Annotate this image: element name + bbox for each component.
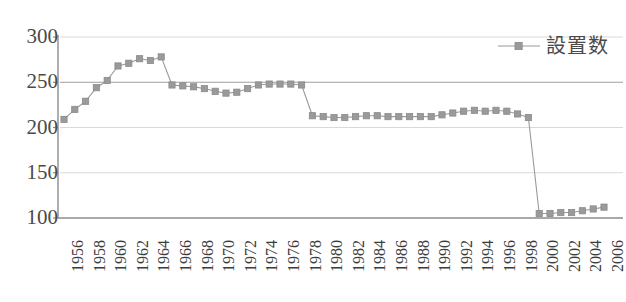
x-axis-tick-label: 1960 [113, 240, 129, 272]
x-axis-tick-label: 1986 [394, 240, 410, 272]
x-axis-tick-label: 1980 [329, 240, 345, 272]
x-axis-tick-label: 1996 [502, 240, 518, 272]
x-axis-tick-label: 1990 [437, 240, 453, 272]
x-axis-tick-label: 1968 [200, 240, 216, 272]
x-axis-tick-label: 1976 [286, 240, 302, 272]
x-axis-tick-label: 2006 [610, 240, 626, 272]
x-axis-tick-label: 1984 [372, 240, 388, 272]
x-axis-tick-label: 1962 [135, 240, 151, 272]
x-axis-tick-label: 1988 [416, 240, 432, 272]
x-axis-tick-label: 1974 [264, 240, 280, 272]
x-axis-tick-label: 1994 [480, 240, 496, 272]
x-axis-tick-label: 2002 [567, 240, 583, 272]
x-axis-tick-label: 1956 [70, 240, 86, 272]
x-axis-tick-label: 1966 [178, 240, 194, 272]
x-axis-tick-label: 1992 [459, 240, 475, 272]
x-axis-tick-label: 1982 [351, 240, 367, 272]
x-axis-tick-label: 1964 [156, 240, 172, 272]
x-axis-tick-label: 2000 [545, 240, 561, 272]
x-axis-tick-label: 1998 [524, 240, 540, 272]
x-axis-tick-label: 1958 [92, 240, 108, 272]
x-axis-tick-label: 1970 [221, 240, 237, 272]
x-axis-tick-label: 1978 [308, 240, 324, 272]
x-axis-tick-label: 2004 [588, 240, 604, 272]
legend-marker-icon [498, 39, 540, 53]
chart-legend: 設置数 [498, 36, 609, 56]
legend-item-label: 設置数 [546, 36, 609, 56]
x-axis-tick-label: 1972 [243, 240, 259, 272]
